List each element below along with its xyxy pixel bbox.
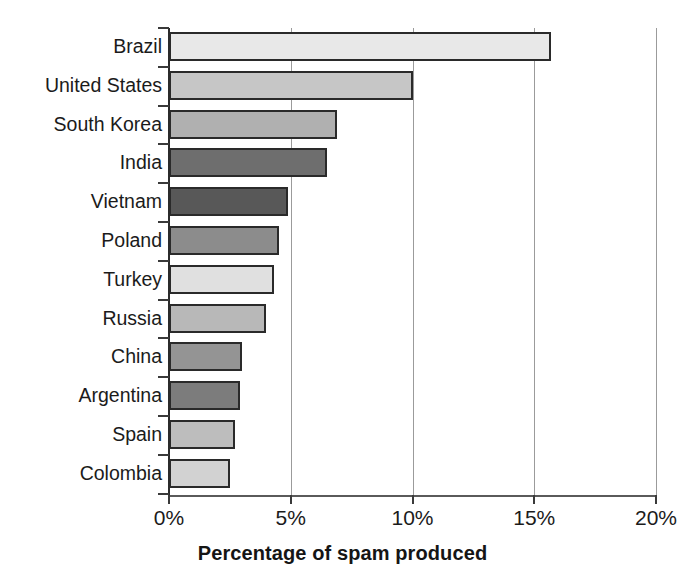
x-tick-20pct [655,495,657,504]
category-label: China [12,342,162,371]
x-tick-label: 0% [154,505,184,531]
x-tick-label: 5% [276,505,306,531]
y-axis-line [168,28,170,496]
gridline-20pct [656,28,657,496]
bar [169,381,240,410]
bar [169,71,413,100]
bar [169,304,266,333]
category-label: Colombia [12,459,162,488]
bar [169,32,551,61]
category-label: Vietnam [12,187,162,216]
category-label: Brazil [12,32,162,61]
bar [169,342,242,371]
category-label: Russia [12,304,162,333]
bar [169,110,337,139]
category-label: Turkey [12,265,162,294]
x-tick-label: 20% [635,505,677,531]
x-tick-10pct [412,495,414,504]
spam-bar-chart: BrazilUnited StatesSouth KoreaIndiaVietn… [0,0,685,584]
x-tick-15pct [533,495,535,504]
category-label: South Korea [12,110,162,139]
category-label: United States [12,71,162,100]
x-tick-0pct [168,495,170,504]
bar [169,459,230,488]
bar [169,420,235,449]
category-label: India [12,148,162,177]
bar [169,187,288,216]
category-label: Spain [12,420,162,449]
category-label: Argentina [12,381,162,410]
bars-group [169,28,656,495]
x-tick-label: 15% [513,505,555,531]
category-label: Poland [12,226,162,255]
y-axis-category-labels: BrazilUnited StatesSouth KoreaIndiaVietn… [6,28,162,496]
bar [169,265,274,294]
bar [169,226,279,255]
x-tick-5pct [290,495,292,504]
x-axis-title: Percentage of spam produced [0,542,685,565]
bar [169,148,327,177]
x-tick-label: 10% [391,505,433,531]
